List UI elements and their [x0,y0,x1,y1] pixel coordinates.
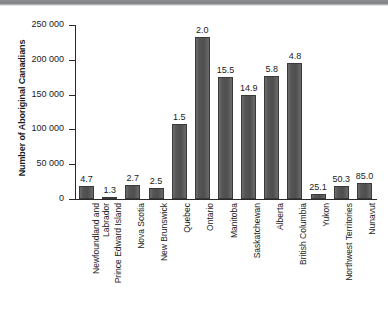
bar-group[interactable]: 1.5 [172,25,187,199]
bar-value-label: 4.8 [289,51,302,61]
bar-group[interactable]: 14.9 [241,25,256,199]
bar-value-label: 15.5 [217,65,235,75]
x-axis-label-line: British Columbia [299,203,309,265]
x-axis-label-line: Alberta [276,203,286,230]
x-axis-label-line: Manitoba [230,203,240,238]
bar-chart: Number of Aboriginal Canadians 050 00010… [0,0,388,317]
bar-group[interactable]: 1.3 [102,25,117,199]
bar-group[interactable]: 85.0 [357,25,372,199]
x-axis-label: Saskatchewan [253,203,263,258]
x-axis-label: Nunavut [368,203,378,235]
bar-group[interactable]: 2.5 [149,25,164,199]
x-axis-label: Prince Edward Island [114,203,124,283]
bar-rect[interactable] [311,194,326,199]
x-axis-label-line: Northwest Territories [345,203,355,281]
x-axis-label-line: Saskatchewan [253,203,263,258]
bar-value-label: 25.1 [309,182,327,192]
x-axis-label-line: New Brunswick [160,203,170,261]
bar-value-label: 2.0 [196,25,209,35]
bar-rect[interactable] [149,188,164,199]
y-axis-title: Number of Aboriginal Canadians [17,28,27,188]
bar-group[interactable]: 25.1 [311,25,326,199]
y-axis-tick-label: 50 000 [36,158,64,168]
x-axis-label: Yukon [322,203,332,227]
bar-value-label: 5.8 [266,64,279,74]
x-axis-label-line: Quebec [183,203,193,233]
bar-group[interactable]: 2.7 [125,25,140,199]
bar-group[interactable]: 50.3 [334,25,349,199]
y-axis-tick-label: 200 000 [31,54,64,64]
bar-value-label: 2.7 [127,173,140,183]
x-axis-label-line: Newfoundland and [92,203,102,274]
x-axis-label: Alberta [276,203,286,230]
bar-group[interactable]: 4.7 [79,25,94,199]
bar-value-label: 50.3 [333,174,351,184]
bar-value-label: 14.9 [240,83,258,93]
x-axis-label: Newfoundland andLabrador [92,203,111,274]
x-axis-label: New Brunswick [160,203,170,261]
bar-rect[interactable] [241,95,256,199]
bar-value-label: 2.5 [150,176,163,186]
y-axis-tick-label: 100 000 [31,123,64,133]
x-axis-label-line: Ontario [206,203,216,231]
x-axis-label: Manitoba [230,203,240,238]
bar-rect[interactable] [125,185,140,199]
bar-rect[interactable] [357,183,372,199]
bar-rect[interactable] [264,76,279,199]
bar-value-label: 1.5 [173,112,186,122]
bar-value-label: 85.0 [356,171,374,181]
bar-group[interactable]: 15.5 [218,25,233,199]
bar-rect[interactable] [287,63,302,199]
bar-rect[interactable] [218,77,233,199]
x-axis-label: Northwest Territories [345,203,355,281]
bar-group[interactable]: 2.0 [195,25,210,199]
bar-rect[interactable] [172,124,187,199]
x-axis-label-line: Prince Edward Island [114,203,124,283]
bar-rect[interactable] [334,186,349,199]
y-axis-tick-label: 150 000 [31,89,64,99]
x-axis-label: Quebec [183,203,193,233]
x-axis-label-line: Labrador [101,203,111,274]
y-axis-tick-label: 250 000 [31,19,64,29]
x-axis-line [75,199,377,200]
x-axis-label-line: Nunavut [368,203,378,235]
bar-rect[interactable] [195,37,210,199]
plot-area: 4.71.32.72.51.52.015.514.95.84.825.150.3… [75,25,376,199]
x-axis-label: Ontario [206,203,216,231]
bar-group[interactable]: 4.8 [287,25,302,199]
bar-value-label: 1.3 [103,185,116,195]
x-axis-label: Nova Scotia [137,203,147,249]
bar-value-label: 4.7 [80,174,93,184]
y-axis-tick-label: 0 [59,193,64,203]
x-axis-label-line: Nova Scotia [137,203,147,249]
x-axis-label-line: Yukon [322,203,332,227]
bar-group[interactable]: 5.8 [264,25,279,199]
bar-rect[interactable] [102,197,117,199]
x-axis-label: British Columbia [299,203,309,265]
bar-rect[interactable] [79,186,94,199]
